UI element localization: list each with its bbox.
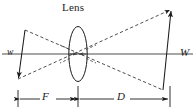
lens-ray-diagram-figure: Lens w W F D	[0, 0, 195, 112]
ray-stub-lower-right	[86, 59, 96, 64]
ray-object-top-to-image-bottom	[25, 30, 163, 90]
image-arrow	[163, 11, 171, 90]
diagram-canvas	[0, 0, 195, 112]
ray-object-bottom-to-image-top	[18, 10, 170, 79]
lens-label: Lens	[62, 2, 84, 13]
object-height-label: w	[7, 48, 13, 58]
focal-distance-label: F	[42, 91, 49, 102]
image-distance-label: D	[117, 91, 125, 102]
image-height-label: W	[180, 47, 189, 58]
